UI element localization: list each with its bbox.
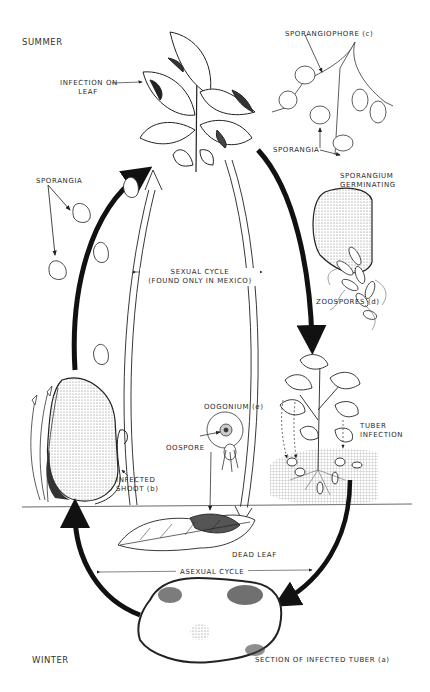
sporangium-germinating-drawing: [313, 188, 386, 330]
asexual-cycle-label: ASEXUAL CYCLE: [176, 568, 248, 577]
sporangia-left-label: SPORANGIA: [36, 177, 82, 186]
sporangium-germinating-label: SPORANGIUM GERMINATING: [340, 172, 396, 190]
infected-tuber-section: [138, 578, 281, 663]
oospore-label: OOSPORE: [166, 444, 205, 453]
season-summer-label: SUMMER: [22, 38, 63, 47]
tuber-infection-label: TUBER INFECTION: [360, 422, 403, 440]
dead-leaf-label: DEAD LEAF: [232, 551, 277, 560]
soil-line: [22, 504, 412, 507]
airborne-sporangia: [48, 177, 138, 364]
sporangiophore-drawing: [272, 35, 393, 155]
dead-leaf-drawing: [118, 514, 255, 551]
sporangia-right-label: SPORANGIA: [273, 146, 319, 155]
diagram-artwork: [0, 0, 430, 692]
sexual-cycle-label: SEXUAL CYCLE (FOUND ONLY IN MEXICO): [140, 268, 260, 286]
oogonium-drawing: [200, 412, 243, 510]
blight-life-cycle-diagram: SUMMER WINTER INFECTION ON LEAF SPORANGI…: [0, 0, 430, 692]
infected-shoot-label: INFECTED SHOOT (b): [116, 476, 159, 494]
infection-on-leaf-label: INFECTION ON LEAF: [60, 79, 116, 97]
sprouting-arrow-left: [75, 513, 140, 615]
dispersal-arrow-right: [258, 150, 312, 340]
infected-shoot-drawing: [31, 378, 128, 504]
oogonium-label: OOGONIUM (e): [204, 403, 264, 412]
infected-tuber-label: SECTION OF INFECTED TUBER (a): [255, 656, 390, 665]
zoospores-label: ZOOSPORES (d): [316, 298, 380, 307]
season-winter-label: WINTER: [32, 656, 69, 665]
sexual-cycle-arrows: [124, 160, 262, 522]
sporangiophore-label: SPORANGIOPHORE (c): [285, 30, 373, 39]
infected-leaf-plant: [140, 32, 255, 172]
